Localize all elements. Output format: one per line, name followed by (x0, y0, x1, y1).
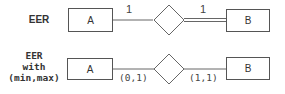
row-label-line-1: EER (4, 50, 64, 61)
entity-a-1: A (68, 8, 113, 32)
row-label-eer: EER (24, 14, 54, 25)
relationship-diamond-1 (154, 5, 184, 35)
row-label-line-3: (min,max) (4, 72, 64, 83)
cardinality-b-1: 1 (200, 3, 206, 15)
cardinality-b-2: (1,1) (189, 72, 218, 83)
cardinality-a-2: (0,1) (119, 72, 148, 83)
relationship-diamond-2 (154, 54, 184, 84)
cardinality-a-1: 1 (126, 3, 132, 15)
entity-b-2: B (226, 57, 270, 80)
entity-b-1: B (226, 9, 270, 32)
row-label-eer-minmax: EER with (min,max) (4, 50, 64, 83)
row-label-line-2: with (4, 61, 64, 72)
entity-a-2: A (67, 58, 113, 80)
